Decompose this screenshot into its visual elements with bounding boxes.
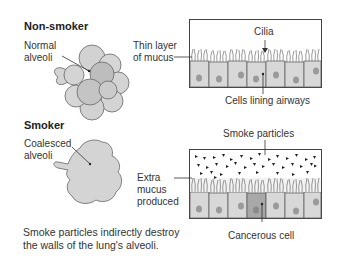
nonsmoker-heading: Non-smoker bbox=[24, 20, 88, 32]
normal-airway-icon bbox=[174, 20, 322, 95]
coalesced-alveoli-label-line2: alveoli bbox=[24, 150, 71, 162]
smoker-heading: Smoker bbox=[24, 119, 64, 131]
thin-mucus-label-line1: Thin layer bbox=[133, 40, 177, 52]
cancerous-cell-label: Cancerous cell bbox=[228, 230, 294, 242]
normal-alveoli-label-line1: Normal bbox=[24, 40, 56, 52]
normal-alveoli-label-line2: alveoli bbox=[24, 52, 56, 64]
caption-line2: the walls of the lung's alveoli. bbox=[23, 239, 179, 252]
caption: Smoke particles indirectly destroy the w… bbox=[23, 226, 179, 252]
thin-mucus-label-line2: of mucus bbox=[133, 52, 177, 64]
cilia-label: Cilia bbox=[254, 26, 273, 38]
extra-mucus-label-line3: produced bbox=[137, 196, 179, 208]
extra-mucus-label: Extra mucus produced bbox=[137, 172, 179, 208]
smoker-airway-icon bbox=[174, 140, 322, 222]
extra-mucus-label-line1: Extra bbox=[137, 172, 179, 184]
normal-alveoli-icon bbox=[55, 45, 129, 120]
cancerous-cell-icon bbox=[247, 193, 266, 218]
normal-alveoli-label: Normal alveoli bbox=[24, 40, 56, 64]
cells-lining-label: Cells lining airways bbox=[225, 95, 310, 107]
coalesced-alveoli-label-line1: Coalesced bbox=[24, 138, 71, 150]
extra-mucus-label-line2: mucus bbox=[137, 184, 179, 196]
smoke-particles-label: Smoke particles bbox=[223, 128, 294, 140]
caption-line1: Smoke particles indirectly destroy bbox=[23, 226, 179, 239]
thin-mucus-label: Thin layer of mucus bbox=[133, 40, 177, 64]
coalesced-alveoli-label: Coalesced alveoli bbox=[24, 138, 71, 162]
